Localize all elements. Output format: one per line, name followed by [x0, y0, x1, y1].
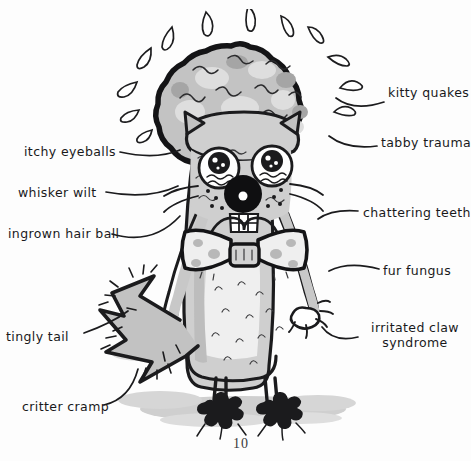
label-itchy-eyeballs: itchy eyeballs	[24, 145, 116, 159]
label-kitty-quakes: kitty quakes	[388, 86, 469, 100]
leader-irritated-claw	[322, 327, 358, 339]
leader-tabby-trauma	[329, 136, 377, 147]
label-critter-cramp: critter cramp	[22, 400, 109, 414]
label-irritated-claw-line2: syndrome	[382, 335, 447, 350]
leader-fur-fungus	[329, 265, 379, 271]
label-whisker-wilt: whisker wilt	[18, 186, 97, 200]
leader-ingrown-hair-ball	[112, 216, 180, 237]
label-chattering-teeth: chattering teeth	[363, 206, 471, 220]
label-fur-fungus: fur fungus	[383, 264, 451, 278]
label-irritated-claw-line1: irritated claw	[371, 320, 459, 335]
leader-chattering-teeth	[318, 211, 358, 219]
label-tingly-tail: tingly tail	[6, 330, 69, 344]
header-clip-mask	[0, 0, 469, 9]
page-number: 10	[233, 436, 249, 452]
label-tabby-trauma: tabby trauma	[381, 136, 471, 150]
label-irritated-claw-syndrome: irritated claw syndrome	[365, 320, 465, 350]
label-ingrown-hair-ball: ingrown hair ball	[8, 227, 119, 241]
cat-nose	[224, 175, 262, 213]
leader-kitty-quakes	[336, 98, 384, 106]
